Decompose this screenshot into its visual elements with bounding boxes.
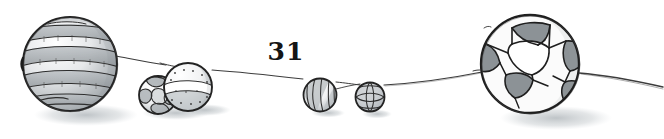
ball-illustration bbox=[0, 0, 664, 139]
ball-striped-large bbox=[18, 14, 124, 111]
illustration-page: 31 bbox=[0, 0, 664, 139]
ball-soccer-large bbox=[473, 15, 593, 114]
ball-swirl-small bbox=[304, 77, 361, 113]
page-number: 31 bbox=[263, 38, 309, 66]
ball-grid-small bbox=[355, 82, 385, 112]
